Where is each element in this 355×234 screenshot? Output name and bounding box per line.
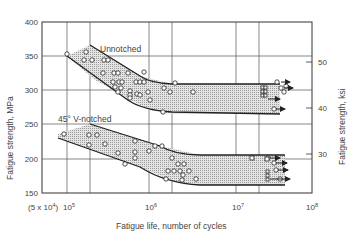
- notched-label: 45° V-notched: [58, 114, 112, 124]
- svg-text:(5 x 104): (5 x 104): [28, 202, 59, 212]
- x-axis-label: Fatigue life, number of cycles: [116, 221, 227, 231]
- svg-text:350: 350: [25, 52, 39, 61]
- y-axis-left-ticks: 400 350 300 250 200 150: [25, 18, 39, 198]
- svg-text:50: 50: [318, 58, 327, 67]
- svg-text:30: 30: [318, 150, 327, 159]
- svg-text:250: 250: [25, 120, 39, 129]
- svg-text:200: 200: [25, 155, 39, 164]
- unnotched-label: Unnotched: [100, 44, 141, 54]
- svg-text:107: 107: [232, 202, 244, 212]
- y-axis-right-ticks: 50 40 30: [318, 58, 327, 159]
- y-axis-right-label: Fatigue strength, ksi: [337, 88, 347, 165]
- svg-text:400: 400: [25, 18, 39, 27]
- svg-text:40: 40: [318, 104, 327, 113]
- svg-text:106: 106: [145, 202, 157, 212]
- fatigue-chart: Unnotched 45° V-notched 400 350 300 250 …: [0, 0, 355, 234]
- svg-text:150: 150: [25, 189, 39, 198]
- y-axis-left-label: Fatigue strength, MPa: [5, 96, 15, 180]
- svg-text:300: 300: [25, 86, 39, 95]
- x-axis-ticks: (5 x 104) 105 106 107 108: [28, 202, 318, 212]
- svg-text:105: 105: [63, 202, 75, 212]
- svg-text:108: 108: [306, 202, 318, 212]
